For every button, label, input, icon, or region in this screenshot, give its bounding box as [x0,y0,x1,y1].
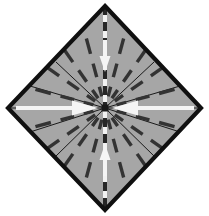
diagram-canvas [0,0,209,216]
center-node [102,105,109,112]
diamond-diagram [0,0,209,216]
